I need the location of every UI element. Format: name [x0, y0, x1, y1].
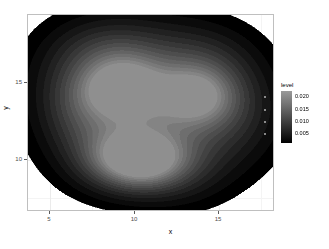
legend-tick-label: 0.020: [295, 94, 309, 100]
y-tick-label: 10: [5, 156, 22, 162]
legend-tick-label: 0.005: [295, 132, 309, 138]
y-tick-label: 15: [5, 79, 22, 85]
plot-panel: [27, 14, 274, 211]
x-tick-label: 5: [47, 216, 50, 222]
legend-labels: 0.0200.0150.0100.005: [295, 91, 321, 143]
chart-figure: 51015 1015 x y level 0.0200.0150.0100.00…: [0, 0, 329, 249]
legend-tick-mark: [264, 134, 266, 135]
y-axis-title: y: [2, 106, 9, 110]
legend-colorbar: [281, 91, 292, 143]
density-contour-plot: [28, 15, 273, 210]
legend-tick-mark: [264, 97, 266, 98]
y-tick-mark: [24, 82, 27, 83]
legend-title: level: [281, 82, 321, 88]
x-tick-label: 15: [215, 216, 222, 222]
legend-tick-mark: [264, 121, 266, 122]
y-tick-mark: [24, 159, 27, 160]
x-axis-title: x: [0, 228, 329, 235]
legend-body: 0.0200.0150.0100.005: [281, 91, 321, 143]
x-tick-mark: [49, 211, 50, 214]
legend: level 0.0200.0150.0100.005: [281, 82, 321, 143]
legend-tick-label: 0.015: [295, 107, 309, 113]
x-tick-mark: [218, 211, 219, 214]
legend-tick-label: 0.010: [295, 119, 309, 125]
x-tick-mark: [134, 211, 135, 214]
legend-tick-mark: [264, 109, 266, 110]
x-tick-label: 10: [131, 216, 138, 222]
